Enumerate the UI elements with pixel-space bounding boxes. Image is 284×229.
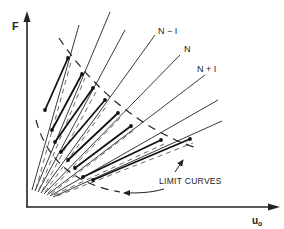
lower-intersection-dot: [50, 128, 54, 132]
dashed-line: [39, 78, 85, 190]
dashed-line: [48, 117, 121, 193]
lower-intersection-dot: [43, 108, 47, 112]
upper-intersection-dot: [91, 86, 95, 90]
upper-intersection-dot: [66, 56, 70, 60]
upper-intersection-dot: [159, 138, 163, 142]
upper-intersection-dot: [129, 124, 133, 128]
lower-intersection-dot: [73, 166, 77, 170]
bold-segment: [93, 139, 190, 180]
x-axis-label: uo: [252, 215, 262, 227]
fan-line: [35, 12, 110, 191]
dashed-line: [45, 104, 108, 192]
y-axis-arrow-icon: [24, 11, 31, 22]
line-label-n-minus-1: N − I: [158, 26, 177, 36]
line-label-n-plus-1: N + I: [197, 64, 216, 74]
diagram-canvas: F uo N − I N N + I LIMIT CURVES: [0, 0, 284, 229]
upper-intersection-dot: [188, 137, 192, 141]
lower-intersection-dot: [59, 150, 63, 154]
arrow-to-upper-curve: [175, 160, 183, 172]
lower-intersection-dot: [53, 140, 57, 144]
upper-limit-curve: [59, 38, 197, 148]
bold-segment: [75, 126, 131, 168]
bold-segment: [68, 113, 118, 160]
y-axis-label: F: [12, 20, 19, 32]
lower-intersection-dot: [91, 178, 95, 182]
upper-intersection-dot: [103, 98, 107, 102]
limit-curves-label: LIMIT CURVES: [159, 176, 222, 186]
x-axis-label-sub: o: [258, 220, 262, 227]
lower-intersection-dot: [66, 158, 70, 162]
arrow-to-lower-curve: [124, 189, 164, 193]
lower-intersection-dot: [81, 175, 85, 179]
upper-intersection-dot: [116, 111, 120, 115]
x-axis-arrow-icon: [268, 204, 280, 211]
line-label-n: N: [184, 44, 191, 54]
upper-intersection-dot: [80, 72, 84, 76]
